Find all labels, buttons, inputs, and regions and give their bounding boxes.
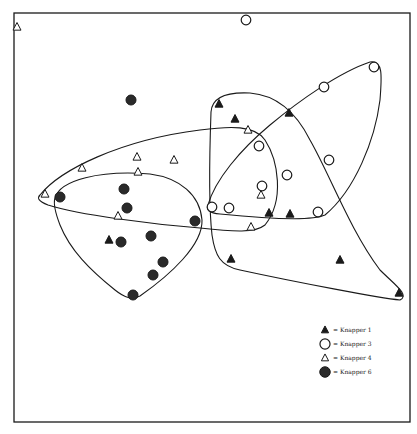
open-triangle-icon	[134, 168, 142, 176]
legend-item: = Knapper 3	[320, 339, 372, 349]
series-knapper-6	[55, 95, 200, 300]
open-circle-icon	[224, 203, 234, 213]
filled-circle-icon	[128, 290, 138, 300]
open-circle-icon	[313, 207, 323, 217]
legend-item: = Knapper 6	[320, 367, 372, 378]
open-circle-icon	[282, 170, 292, 180]
open-circle-icon	[319, 82, 329, 92]
filled-triangle-icon	[105, 236, 113, 244]
open-circle-icon	[369, 62, 379, 72]
filled-circle-icon	[122, 203, 132, 213]
open-triangle-icon	[78, 164, 86, 172]
filled-triangle-icon	[286, 210, 294, 218]
legend-label: = Knapper 4	[333, 354, 372, 362]
hull-knapper-3	[207, 62, 381, 219]
legend-label: = Knapper 1	[333, 326, 372, 334]
filled-triangle-icon	[321, 326, 328, 333]
open-triangle-icon	[244, 126, 252, 134]
filled-triangle-icon	[336, 256, 344, 264]
scatter-plot: = Knapper 1= Knapper 3= Knapper 4= Knapp…	[0, 0, 417, 434]
open-triangle-icon	[257, 191, 265, 199]
filled-circle-icon	[116, 237, 126, 247]
data-points	[13, 15, 403, 300]
open-circle-icon	[324, 155, 334, 165]
open-triangle-icon	[41, 190, 49, 198]
open-triangle-icon	[114, 212, 122, 220]
open-circle-icon	[320, 339, 330, 349]
open-triangle-icon	[133, 153, 141, 161]
open-circle-icon	[257, 181, 267, 191]
legend-label: = Knapper 6	[333, 368, 372, 376]
filled-circle-icon	[55, 192, 65, 202]
series-knapper-4	[13, 23, 265, 231]
open-triangle-icon	[321, 354, 328, 361]
legend: = Knapper 1= Knapper 3= Knapper 4= Knapp…	[320, 326, 372, 377]
series-knapper-1	[105, 100, 403, 297]
open-circle-icon	[207, 202, 217, 212]
open-circle-icon	[254, 141, 264, 151]
filled-circle-icon	[320, 367, 331, 378]
filled-circle-icon	[119, 184, 129, 194]
open-triangle-icon	[247, 223, 255, 231]
hull-knapper-1	[210, 93, 404, 300]
filled-circle-icon	[148, 270, 158, 280]
legend-label: = Knapper 3	[333, 340, 372, 348]
filled-circle-icon	[126, 95, 136, 105]
legend-item: = Knapper 4	[321, 354, 371, 362]
filled-triangle-icon	[231, 115, 239, 123]
filled-circle-icon	[146, 231, 156, 241]
hull-outlines	[39, 62, 404, 300]
legend-item: = Knapper 1	[321, 326, 371, 334]
filled-circle-icon	[190, 216, 200, 226]
filled-circle-icon	[158, 257, 168, 267]
open-circle-icon	[241, 15, 251, 25]
filled-triangle-icon	[265, 209, 273, 217]
filled-triangle-icon	[227, 255, 235, 263]
open-triangle-icon	[170, 156, 178, 164]
